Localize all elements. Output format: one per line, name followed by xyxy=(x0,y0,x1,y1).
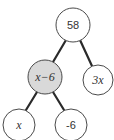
edge-root-right xyxy=(80,40,92,66)
node-left-label: x−6 xyxy=(34,70,54,84)
edge-left-leftleft xyxy=(26,92,37,110)
node-left-left-label: x xyxy=(15,118,22,132)
edge-left-leftright xyxy=(53,92,64,110)
node-left-left: x xyxy=(3,109,35,140)
node-root: 58 xyxy=(56,8,90,42)
node-left-right-label: -6 xyxy=(66,119,76,131)
node-right: 3x xyxy=(83,65,113,95)
node-right-label: 3x xyxy=(91,73,104,87)
node-left: x−6 xyxy=(28,60,62,94)
node-root-label: 58 xyxy=(67,19,79,31)
edge-root-left xyxy=(53,40,66,62)
number-tree-diagram: 58 x−6 3x x -6 xyxy=(0,0,114,140)
node-left-right: -6 xyxy=(55,109,87,140)
